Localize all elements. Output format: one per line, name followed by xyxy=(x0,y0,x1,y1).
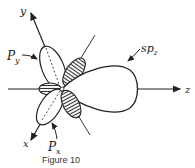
px-pointer-arrow xyxy=(52,123,57,139)
py-pointer-arrow xyxy=(22,55,37,59)
spz-pointer-arrow xyxy=(128,49,140,61)
figure-caption: Figure 10 xyxy=(42,155,80,165)
px-label: Px xyxy=(47,140,61,156)
z-axis-label: z xyxy=(184,84,191,95)
x-axis-label: x xyxy=(23,138,29,149)
orbital-diagram: y x z Py Px spz Figure 10 xyxy=(0,0,195,168)
y-axis-label: y xyxy=(19,5,27,18)
py-label: Py xyxy=(6,49,20,65)
spz-label: spz xyxy=(141,42,158,57)
nucleus xyxy=(60,87,64,91)
